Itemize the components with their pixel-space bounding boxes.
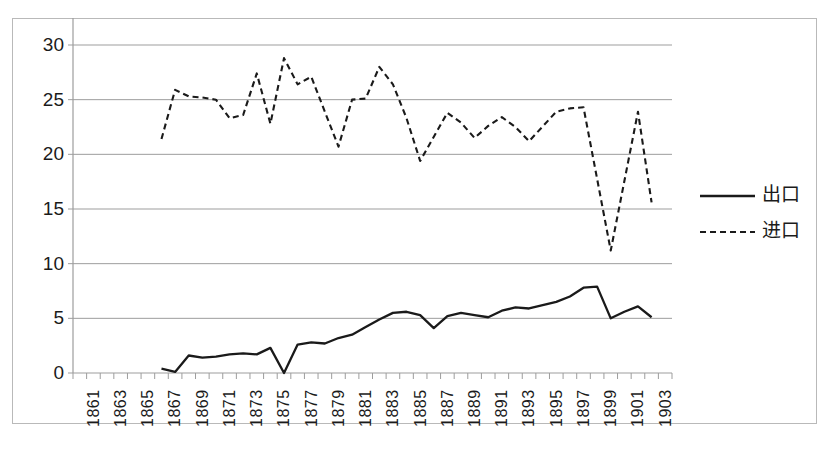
plot-area <box>0 0 835 457</box>
legend-label-imports: 进口 <box>762 221 800 240</box>
series-line-exports <box>161 287 651 373</box>
legend-label-exports: 出口 <box>762 185 800 204</box>
chart-container: 051015202530 186118631865186718691871187… <box>0 0 835 457</box>
